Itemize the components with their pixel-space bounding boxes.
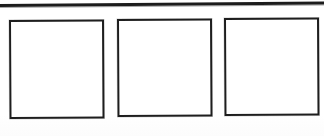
form-box-1-value (11, 22, 102, 117)
form-box-1[interactable] (9, 20, 105, 119)
form-box-3[interactable] (224, 18, 320, 116)
form-box-2-value (119, 21, 210, 115)
form-box-row (0, 0, 324, 136)
form-box-2[interactable] (117, 19, 213, 117)
scanned-page (0, 0, 324, 136)
form-box-3-value (226, 20, 317, 114)
